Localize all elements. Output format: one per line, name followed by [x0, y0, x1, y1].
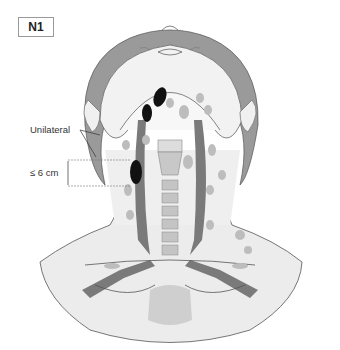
n1-staging-diagram: N1 Unilateral ≤ 6 cm: [0, 0, 340, 350]
stage-badge: N1: [18, 17, 54, 37]
size-limit-label: ≤ 6 cm: [30, 167, 58, 178]
laterality-label: Unilateral: [30, 124, 70, 135]
